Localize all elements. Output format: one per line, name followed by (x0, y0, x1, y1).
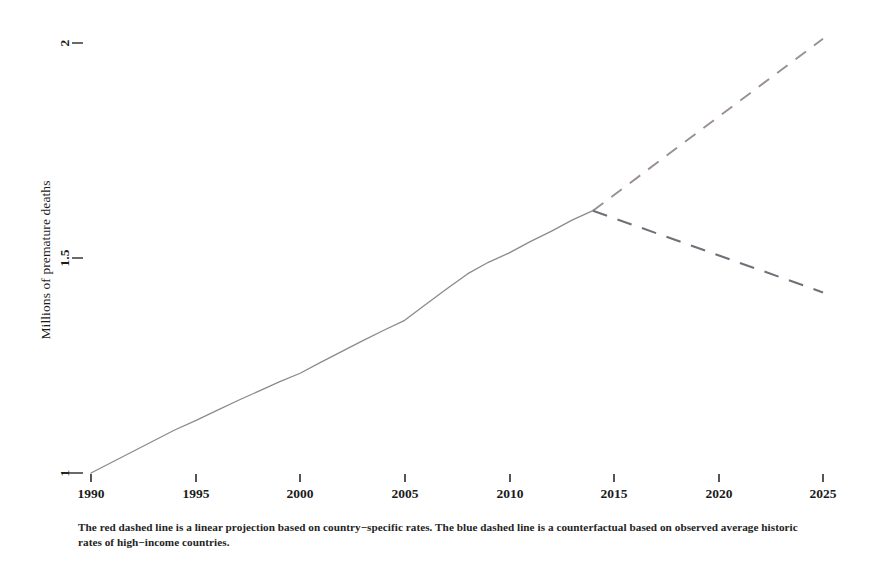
x-tick-marks (91, 474, 823, 482)
y-tick-marks (63, 43, 83, 473)
chart-figure: Millions of premature deaths 2 1.5 1 199… (0, 0, 871, 562)
line-series-observed (91, 211, 593, 473)
plot-area (0, 0, 871, 562)
line-series-projection-dashed (593, 39, 823, 211)
line-series-counterfactual-dashed (593, 211, 823, 293)
figure-caption: The red dashed line is a linear projecti… (78, 520, 818, 550)
